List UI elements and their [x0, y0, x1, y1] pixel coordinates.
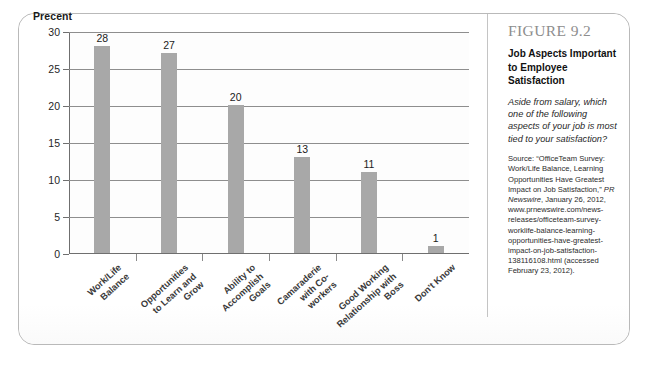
gridline	[69, 69, 469, 70]
y-tick-label: 0	[54, 248, 60, 260]
gridline	[69, 217, 469, 218]
y-tick	[63, 143, 69, 144]
gridline	[69, 106, 469, 107]
chart-area: Precent 051015202530 28272013111 Work/Li…	[19, 10, 481, 322]
gridline	[69, 180, 469, 181]
caption-divider	[487, 14, 488, 317]
bar-value-label: 11	[364, 158, 375, 170]
figure-root: Precent 051015202530 28272013111 Work/Li…	[0, 0, 664, 368]
figure-title: Job Aspects Important to Employee Satisf…	[508, 47, 620, 88]
y-tick	[63, 32, 69, 33]
y-tick-label: 5	[54, 211, 60, 223]
y-tick-label: 15	[48, 137, 60, 149]
bar-value-label: 27	[163, 39, 175, 51]
plot-area: 051015202530 28272013111 Work/LifeBalanc…	[69, 32, 469, 254]
y-tick	[63, 69, 69, 70]
y-axis-title: Precent	[33, 10, 72, 22]
y-tick-label: 10	[48, 174, 60, 186]
bar[interactable]	[94, 46, 110, 253]
y-tick-label: 30	[48, 26, 60, 38]
y-tick	[63, 217, 69, 218]
bar-value-label: 28	[96, 32, 108, 44]
y-tick	[63, 106, 69, 107]
bar[interactable]	[161, 53, 177, 253]
source-suffix: , January 26, 2012, www.prnewswire.com/n…	[508, 195, 606, 275]
y-tick-label: 25	[48, 63, 60, 75]
gridline	[69, 32, 469, 33]
source-prefix: Source: “OfficeTeam Survey: Work/Life Ba…	[508, 154, 605, 194]
figure-number: FIGURE 9.2	[508, 22, 620, 40]
figure-source: Source: “OfficeTeam Survey: Work/Life Ba…	[508, 154, 620, 276]
y-tick-label: 20	[48, 100, 60, 112]
bar-value-label: 13	[296, 143, 308, 155]
bar-value-label: 20	[230, 91, 242, 103]
gridline	[69, 143, 469, 144]
y-tick	[63, 254, 69, 255]
figure-caption: FIGURE 9.2 Job Aspects Important to Empl…	[508, 22, 620, 277]
figure-question: Aside from salary, which one of the foll…	[508, 96, 620, 146]
y-tick	[63, 180, 69, 181]
